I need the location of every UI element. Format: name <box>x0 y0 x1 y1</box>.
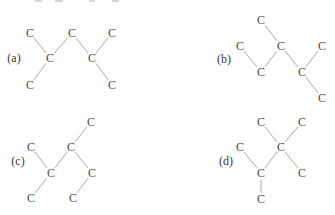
bond-line <box>34 63 46 80</box>
carbon-atom: C <box>318 39 326 53</box>
bond-line <box>285 51 298 67</box>
molecule-a: CCCCCCC(a) <box>7 26 116 92</box>
carbon-atom: C <box>318 91 326 105</box>
carbon-atom: C <box>26 78 34 92</box>
carbon-atom: C <box>46 51 54 65</box>
carbon-atom: C <box>236 140 244 154</box>
bond-line <box>244 51 257 67</box>
bond-line <box>306 77 318 93</box>
carbon-atom: C <box>298 65 306 79</box>
bond-line <box>96 38 108 53</box>
bond-line <box>285 152 298 168</box>
bond-line <box>55 152 67 168</box>
bond-line <box>35 152 47 168</box>
bond-line <box>35 178 47 193</box>
molecule-label-b: (b) <box>217 52 231 66</box>
carbon-atom: C <box>88 51 96 65</box>
carbon-atom: C <box>26 26 34 40</box>
bond-line <box>34 38 46 53</box>
carbon-atom: C <box>67 140 75 154</box>
bond-line <box>306 51 318 67</box>
bond-line <box>75 152 88 168</box>
molecule-label-c: (c) <box>11 154 24 168</box>
carbon-atom: C <box>87 115 95 129</box>
carbon-atom: C <box>47 166 55 180</box>
carbon-atom: C <box>277 39 285 53</box>
carbon-atom: C <box>298 115 306 129</box>
top-edge-text-remnant <box>35 0 42 2</box>
bond-line <box>75 127 87 142</box>
molecule-c: CCCCCCC(c) <box>11 115 96 205</box>
molecule-label-a: (a) <box>7 51 20 65</box>
bond-line <box>96 63 108 80</box>
molecule-b: CCCCCCC(b) <box>217 13 326 105</box>
carbon-atom: C <box>236 39 244 53</box>
molecule-label-d: (d) <box>219 154 233 168</box>
carbon-atom: C <box>27 191 35 205</box>
carbon-atom: C <box>277 140 285 154</box>
molecule-diagram-svg: CCCCCCC(a)CCCCCCC(b)CCCCCCC(c)CCCCCCC(d) <box>0 0 335 215</box>
carbon-atom: C <box>257 192 265 206</box>
carbon-atom: C <box>88 166 96 180</box>
bond-line <box>77 178 88 193</box>
bond-line <box>265 127 277 142</box>
top-edge-text-remnant <box>89 0 95 2</box>
bond-line <box>54 38 67 53</box>
carbon-atom: C <box>69 191 77 205</box>
structural-formula-figure: CCCCCCC(a)CCCCCCC(b)CCCCCCC(c)CCCCCCC(d) <box>0 0 335 215</box>
molecule-d: CCCCCCC(d) <box>219 115 306 206</box>
carbon-atom: C <box>27 140 35 154</box>
bond-line <box>285 127 298 142</box>
carbon-atom: C <box>257 115 265 129</box>
carbon-atom: C <box>108 78 116 92</box>
bond-line <box>244 152 257 168</box>
top-edge-text-remnant <box>55 0 63 2</box>
bond-line <box>76 38 88 53</box>
bond-line <box>265 25 277 41</box>
carbon-atom: C <box>298 166 306 180</box>
carbon-atom: C <box>108 26 116 40</box>
top-edge-text-remnant <box>112 0 119 2</box>
carbon-atom: C <box>68 26 76 40</box>
bond-line <box>265 51 277 67</box>
carbon-atom: C <box>257 166 265 180</box>
bond-line <box>265 152 277 168</box>
carbon-atom: C <box>257 13 265 27</box>
carbon-atom: C <box>257 65 265 79</box>
